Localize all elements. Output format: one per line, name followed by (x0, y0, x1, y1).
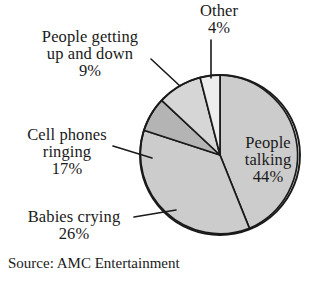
slice-label-cell-phones-line2: ringing (2, 143, 132, 160)
slice-label-other-name: Other (200, 1, 238, 20)
slice-label-people-getting-up: People getting up and down 9% (14, 28, 166, 79)
slice-label-babies-crying-line1: Babies crying (28, 207, 121, 226)
slice-label-cell-phones-pct: 17% (2, 160, 132, 177)
slice-label-babies-crying: Babies crying 26% (6, 208, 142, 242)
slice-label-babies-crying-pct: 26% (6, 225, 142, 242)
slice-label-people-getting-up-line2: up and down (14, 45, 166, 62)
slice-label-people-talking: People talking 44% (229, 134, 307, 185)
slice-label-people-getting-up-pct: 9% (14, 62, 166, 79)
slice-label-people-talking-line2: talking (229, 151, 307, 168)
pie-chart-figure: Other 4% People getting up and down 9% C… (0, 0, 324, 291)
slice-label-people-talking-pct: 44% (229, 168, 307, 185)
chart-source-note: Source: AMC Entertainment (8, 255, 180, 272)
slice-label-people-talking-line1: People (245, 133, 291, 152)
slice-label-other-pct: 4% (176, 19, 262, 36)
slice-label-cell-phones-line1: Cell phones (27, 125, 106, 144)
slice-label-cell-phones-ringing: Cell phones ringing 17% (2, 126, 132, 177)
slice-label-other: Other 4% (176, 2, 262, 36)
slice-label-people-getting-up-line1: People getting (42, 27, 138, 46)
